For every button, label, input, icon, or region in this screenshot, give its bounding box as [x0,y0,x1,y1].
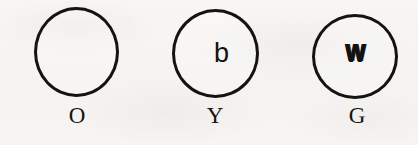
figure-canvas: O b Y W G [0,0,418,145]
circle-inner-glyph-y: b [178,40,265,67]
circle-label-o: O [47,104,107,127]
circle-row: O b Y W G [0,0,418,145]
circle-label-g: G [327,104,387,127]
circle-outline-o [34,7,119,97]
circle-inner-glyph-g: W [315,42,394,65]
circle-label-y: Y [185,104,245,127]
